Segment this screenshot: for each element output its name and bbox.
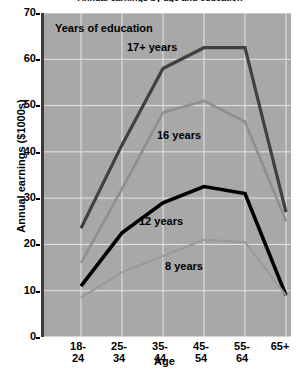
y-axis-title: Annual earnings ($1000s) — [15, 41, 27, 291]
y-tick-mark-10 — [36, 291, 40, 293]
y-tick-label-70: 70 — [0, 7, 36, 18]
y-tick-mark-50 — [36, 105, 40, 107]
series-line — [81, 101, 286, 263]
annotation-series-16: 16 years — [157, 129, 201, 141]
y-tick-mark-20 — [36, 244, 40, 246]
y-tick-label-0: 0 — [0, 331, 36, 342]
annotation-series-17plus: 17+ years — [127, 41, 177, 53]
gridlines — [44, 13, 291, 337]
y-tick-mark-70 — [36, 13, 40, 15]
x-axis-title: Age — [41, 355, 288, 367]
x-tick-label-65plus: 65+ — [258, 341, 296, 353]
annotation-series-12: 12 years — [139, 215, 183, 227]
y-tick-mark-60 — [36, 59, 40, 61]
y-tick-mark-0 — [36, 337, 40, 339]
chart-figure: Annual earnings by age and education 70 … — [0, 0, 296, 373]
plot-area — [41, 13, 291, 337]
y-tick-mark-30 — [36, 198, 40, 200]
y-tick-mark-40 — [36, 152, 40, 154]
series-canvas — [44, 13, 291, 337]
annotation-series-8: 8 years — [165, 260, 203, 272]
annotation-legend-title: Years of education — [55, 22, 153, 34]
